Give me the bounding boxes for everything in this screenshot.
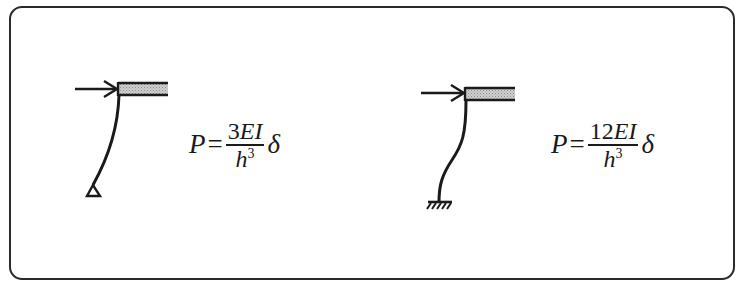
deflected-column-left <box>93 95 119 185</box>
formula-delta: δ <box>641 129 654 160</box>
fixed-column-diagram <box>421 85 515 209</box>
fixed-support-icon <box>427 202 452 209</box>
load-arrow-left-icon <box>75 81 117 97</box>
formula-lhs: P <box>189 129 206 160</box>
deflected-column-right <box>439 100 466 202</box>
formula-fraction: 3EI h3 <box>226 118 265 172</box>
formula-denominator: h3 <box>604 146 623 172</box>
formula-delta: δ <box>267 129 280 160</box>
pinned-column-diagram <box>75 81 168 196</box>
beam-left <box>118 82 168 96</box>
formula-equals: = <box>208 129 223 160</box>
formula-denominator: h3 <box>236 146 255 172</box>
stiffness-formula-fixed: P = 12EI h3 δ <box>551 118 654 172</box>
stiffness-formula-pinned: P = 3EI h3 δ <box>189 118 280 172</box>
formula-numerator: 12EI <box>588 118 639 144</box>
formula-lhs: P <box>551 129 568 160</box>
pin-support-icon <box>87 185 100 196</box>
formula-equals: = <box>570 129 585 160</box>
load-arrow-right-icon <box>421 85 464 101</box>
formula-numerator: 3EI <box>226 118 265 144</box>
beam-right <box>465 87 515 101</box>
formula-fraction: 12EI h3 <box>588 118 639 172</box>
